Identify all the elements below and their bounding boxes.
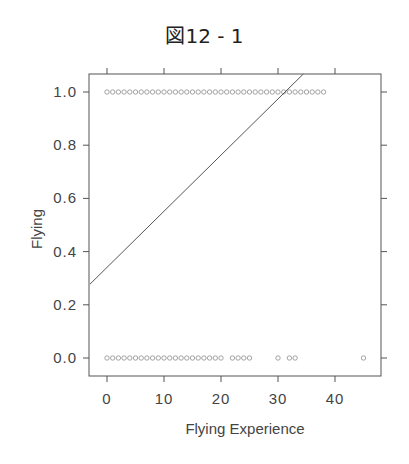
- data-point: [219, 90, 223, 94]
- data-point: [293, 90, 297, 94]
- data-point: [162, 356, 166, 360]
- data-point: [179, 356, 183, 360]
- x-tick-label: 20: [212, 390, 231, 407]
- y-axis-label: Flying: [28, 209, 45, 249]
- data-point: [213, 356, 217, 360]
- data-point: [128, 356, 132, 360]
- data-point: [168, 356, 172, 360]
- plot-frame: [89, 74, 381, 376]
- data-point: [122, 356, 126, 360]
- data-point: [276, 90, 280, 94]
- data-point: [361, 356, 365, 360]
- data-point: [321, 90, 325, 94]
- data-point: [242, 90, 246, 94]
- data-point: [236, 356, 240, 360]
- x-tick-label: 30: [269, 390, 288, 407]
- data-point: [179, 90, 183, 94]
- data-point: [105, 90, 109, 94]
- data-point: [116, 90, 120, 94]
- y-tick-label: 0.6: [53, 189, 77, 206]
- data-point: [162, 90, 166, 94]
- data-point: [185, 356, 189, 360]
- data-point: [139, 90, 143, 94]
- data-point: [133, 90, 137, 94]
- y-tick-label: 0.0: [53, 349, 77, 366]
- y-tick-label: 0.8: [53, 136, 77, 153]
- data-point: [293, 356, 297, 360]
- data-point: [116, 356, 120, 360]
- data-point: [299, 90, 303, 94]
- data-point: [247, 90, 251, 94]
- data-point: [219, 356, 223, 360]
- data-point: [145, 356, 149, 360]
- data-point: [264, 90, 268, 94]
- data-point: [230, 356, 234, 360]
- data-point: [196, 90, 200, 94]
- data-point: [111, 356, 115, 360]
- y-tick-label: 0.4: [53, 243, 77, 260]
- data-point: [150, 90, 154, 94]
- data-point: [196, 356, 200, 360]
- data-point: [225, 90, 229, 94]
- x-axis-label: Flying Experience: [185, 420, 304, 437]
- data-point: [316, 90, 320, 94]
- y-tick-label: 0.2: [53, 296, 77, 313]
- data-point: [202, 90, 206, 94]
- data-point: [270, 90, 274, 94]
- data-point: [150, 356, 154, 360]
- y-tick-label: 1.0: [53, 83, 77, 100]
- data-point: [230, 90, 234, 94]
- data-point: [173, 356, 177, 360]
- data-point: [253, 90, 257, 94]
- data-point: [207, 356, 211, 360]
- data-point: [145, 90, 149, 94]
- data-point: [190, 356, 194, 360]
- data-point: [156, 356, 160, 360]
- data-point: [190, 90, 194, 94]
- data-point: [156, 90, 160, 94]
- data-point: [287, 356, 291, 360]
- data-point: [122, 90, 126, 94]
- data-point: [185, 90, 189, 94]
- data-point: [213, 90, 217, 94]
- data-point: [259, 90, 263, 94]
- data-point: [276, 356, 280, 360]
- data-point: [111, 90, 115, 94]
- data-point: [287, 90, 291, 94]
- x-tick-label: 10: [155, 390, 174, 407]
- data-point: [128, 90, 132, 94]
- data-point: [168, 90, 172, 94]
- data-point: [236, 90, 240, 94]
- scatter-plot: 0102030400.00.20.40.60.81.0Flying Experi…: [0, 0, 409, 464]
- data-point: [105, 356, 109, 360]
- data-point: [173, 90, 177, 94]
- x-tick-label: 0: [102, 390, 111, 407]
- data-point: [247, 356, 251, 360]
- data-point: [133, 356, 137, 360]
- data-point: [304, 90, 308, 94]
- x-tick-label: 40: [326, 390, 345, 407]
- data-point: [139, 356, 143, 360]
- data-point: [207, 90, 211, 94]
- data-point: [202, 356, 206, 360]
- data-point: [242, 356, 246, 360]
- data-point: [310, 90, 314, 94]
- fit-line: [90, 74, 303, 284]
